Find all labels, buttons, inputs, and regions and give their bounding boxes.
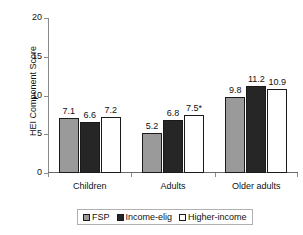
bar-value-label: 9.8 [229, 85, 242, 95]
hei-component-score-bar-chart: HEI Component Score 05101520 7.16.67.25.… [0, 0, 303, 235]
bar-group: 5.26.87.5* [131, 18, 214, 173]
legend-swatch-icon [117, 214, 124, 221]
bar-groups: 7.16.67.25.26.87.5*9.811.210.9 [48, 18, 298, 173]
bar-slot: 9.8 [225, 18, 245, 173]
bar-value-label: 7.5* [186, 103, 202, 113]
legend-label: Higher-income [188, 212, 247, 222]
y-tick-label: 5 [37, 128, 42, 138]
bar[interactable] [246, 86, 266, 173]
category-labels: ChildrenAdultsOlder adults [48, 181, 298, 195]
x-tick-mark [131, 173, 132, 177]
bar-value-label: 11.2 [248, 74, 265, 84]
y-tick-label: 10 [32, 90, 42, 100]
bar-slot: 10.9 [267, 18, 287, 173]
x-tick-mark [48, 173, 49, 177]
bar-slot: 7.2 [101, 18, 121, 173]
plot-area: 05101520 7.16.67.25.26.87.5*9.811.210.9 [48, 18, 298, 173]
bar[interactable] [225, 97, 245, 173]
bar[interactable] [59, 118, 79, 173]
x-tick-mark [215, 173, 216, 177]
chart-legend: FSPIncome-eligHigher-income [77, 209, 253, 225]
bar[interactable] [163, 120, 183, 173]
bar-group: 7.16.67.2 [48, 18, 131, 173]
bar-slot: 6.6 [80, 18, 100, 173]
bar-value-label: 10.9 [269, 77, 287, 87]
bar-value-label: 7.1 [62, 106, 75, 116]
legend-label: FSP [92, 212, 110, 222]
bar[interactable] [80, 122, 100, 173]
bar-slot: 7.5* [184, 18, 204, 173]
legend-item[interactable]: Higher-income [179, 212, 247, 222]
bar-value-label: 5.2 [146, 121, 159, 131]
bar-slot: 5.2 [142, 18, 162, 173]
bar-slot: 7.1 [59, 18, 79, 173]
bar[interactable] [142, 133, 162, 173]
legend-item[interactable]: FSP [83, 212, 110, 222]
y-tick-label: 0 [37, 167, 42, 177]
legend-swatch-icon [179, 214, 186, 221]
legend-swatch-icon [83, 214, 90, 221]
bar-value-label: 6.6 [83, 110, 96, 120]
bar[interactable] [101, 117, 121, 173]
bar-value-label: 6.8 [167, 108, 180, 118]
category-label: Older adults [232, 181, 281, 191]
bar-slot: 11.2 [246, 18, 266, 173]
legend-label: Income-elig [126, 212, 173, 222]
category-label: Adults [160, 181, 185, 191]
bar[interactable] [267, 89, 287, 173]
bar[interactable] [184, 115, 204, 173]
legend-item[interactable]: Income-elig [117, 212, 173, 222]
bar-value-label: 7.2 [104, 105, 117, 115]
bar-slot: 6.8 [163, 18, 183, 173]
y-tick-label: 15 [32, 51, 42, 61]
y-tick-label: 20 [32, 12, 42, 22]
category-label: Children [73, 181, 107, 191]
x-tick-mark [297, 173, 298, 177]
bar-group: 9.811.210.9 [215, 18, 298, 173]
